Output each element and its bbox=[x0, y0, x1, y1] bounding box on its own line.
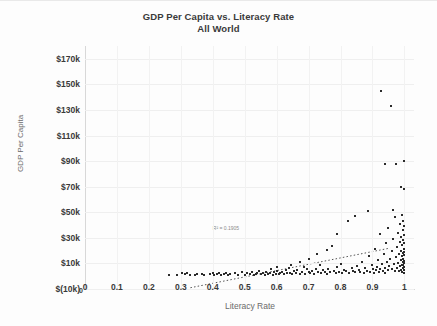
data-point bbox=[388, 265, 390, 267]
x-axis-ticks: 00.10.20.30.40.50.60.70.80.91 bbox=[85, 282, 415, 300]
x-tick-label: 0.8 bbox=[335, 282, 347, 292]
data-point bbox=[275, 273, 277, 275]
data-point bbox=[316, 253, 318, 255]
data-point bbox=[384, 163, 386, 165]
x-tick-label: 0.1 bbox=[111, 282, 123, 292]
data-point bbox=[386, 261, 388, 263]
data-point bbox=[336, 233, 338, 235]
x-axis-label: Literacy Rate bbox=[85, 301, 415, 311]
data-point bbox=[329, 271, 331, 273]
data-point bbox=[359, 271, 361, 273]
x-gridline bbox=[213, 46, 214, 289]
data-point bbox=[285, 269, 287, 271]
data-point bbox=[403, 225, 405, 227]
data-point bbox=[400, 186, 402, 188]
data-point bbox=[272, 274, 274, 276]
y-tick-label: $(10k) bbox=[14, 284, 80, 294]
data-point bbox=[377, 259, 379, 261]
x-tick-label: 0.4 bbox=[207, 282, 219, 292]
data-point bbox=[290, 264, 292, 266]
x-gridline bbox=[245, 46, 246, 289]
data-point bbox=[403, 234, 405, 236]
data-point bbox=[308, 258, 310, 260]
x-gridline bbox=[149, 46, 150, 289]
data-point bbox=[379, 233, 381, 235]
data-point bbox=[399, 223, 401, 225]
data-point bbox=[301, 271, 303, 273]
x-gridline bbox=[341, 46, 342, 289]
data-point bbox=[276, 270, 278, 272]
data-point bbox=[403, 262, 405, 264]
data-point bbox=[336, 266, 338, 268]
data-point bbox=[378, 271, 380, 273]
x-gridline bbox=[277, 46, 278, 289]
data-point bbox=[244, 274, 246, 276]
data-point bbox=[341, 272, 343, 274]
data-point bbox=[372, 268, 374, 270]
data-point bbox=[269, 272, 271, 274]
data-point bbox=[402, 239, 404, 241]
data-point bbox=[276, 266, 278, 268]
data-point bbox=[380, 90, 382, 92]
data-point bbox=[384, 267, 386, 269]
data-point bbox=[402, 220, 404, 222]
r-squared-annotation: R² = 0.1905 bbox=[213, 225, 239, 231]
data-point bbox=[260, 273, 262, 275]
data-point bbox=[403, 272, 405, 274]
data-point bbox=[345, 270, 347, 272]
data-point bbox=[270, 268, 272, 270]
x-tick-label: 0.9 bbox=[367, 282, 379, 292]
data-point bbox=[295, 272, 297, 274]
data-point bbox=[326, 273, 328, 275]
data-point bbox=[241, 271, 243, 273]
data-point bbox=[309, 272, 311, 274]
data-point bbox=[403, 160, 405, 162]
data-point bbox=[286, 272, 288, 274]
data-point bbox=[251, 271, 253, 273]
data-point bbox=[396, 267, 398, 269]
data-point bbox=[371, 264, 373, 266]
y-tick-label: $10k bbox=[14, 258, 80, 268]
data-point bbox=[399, 241, 401, 243]
data-point bbox=[403, 188, 405, 190]
y-gridline bbox=[85, 136, 414, 137]
data-point bbox=[311, 270, 313, 272]
data-point bbox=[387, 227, 389, 229]
data-point bbox=[315, 268, 317, 270]
data-point bbox=[374, 248, 376, 250]
data-point bbox=[383, 253, 385, 255]
data-point bbox=[391, 250, 393, 252]
data-point bbox=[403, 266, 405, 268]
data-point bbox=[381, 263, 383, 265]
y-tick-label: $150k bbox=[14, 79, 80, 89]
data-point bbox=[402, 229, 404, 231]
data-point bbox=[258, 270, 260, 272]
data-point bbox=[403, 251, 405, 253]
y-gridline bbox=[85, 187, 414, 188]
data-point bbox=[403, 254, 405, 256]
y-tick-label: $130k bbox=[14, 105, 80, 115]
y-gridline bbox=[85, 59, 414, 60]
data-point bbox=[319, 264, 321, 266]
data-point bbox=[369, 271, 371, 273]
data-point bbox=[196, 273, 198, 275]
data-point bbox=[209, 273, 211, 275]
scatter-chart: GDP Per Capita vs. Literacy Rate All Wor… bbox=[0, 0, 437, 326]
y-gridline bbox=[85, 263, 414, 264]
data-point bbox=[403, 260, 405, 262]
data-point bbox=[186, 272, 188, 274]
data-point bbox=[203, 274, 205, 276]
data-point bbox=[299, 261, 301, 263]
data-point bbox=[326, 249, 328, 251]
y-gridline bbox=[85, 161, 414, 162]
data-point bbox=[304, 273, 306, 275]
x-tick-label: 1 bbox=[402, 282, 407, 292]
y-gridline bbox=[85, 238, 414, 239]
data-point bbox=[397, 232, 399, 234]
data-point bbox=[401, 244, 403, 246]
data-point bbox=[389, 258, 391, 260]
y-gridline bbox=[85, 84, 414, 85]
trendline bbox=[85, 46, 414, 289]
y-tick-label: $70k bbox=[14, 182, 80, 192]
data-point bbox=[249, 273, 251, 275]
